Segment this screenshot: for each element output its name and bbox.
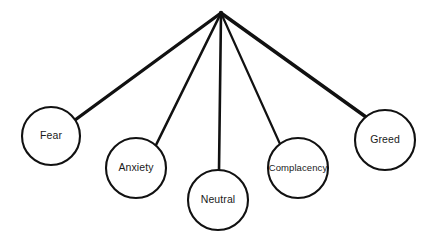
edge-apex-to-greed (221, 13, 366, 117)
edge-apex-to-fear (75, 13, 221, 120)
diagram-canvas: FearAnxietyNeutralComplacencyGreed (0, 0, 436, 240)
fan-hierarchy-diagram: FearAnxietyNeutralComplacencyGreed (0, 0, 436, 240)
node-label-greed: Greed (370, 133, 400, 145)
apex-junction-point (219, 11, 223, 15)
apex-node (219, 11, 223, 15)
node-label-neutral: Neutral (201, 193, 236, 205)
node-greed[interactable]: Greed (355, 110, 415, 170)
node-label-fear: Fear (40, 129, 62, 141)
node-label-anxiety: Anxiety (118, 161, 154, 173)
edge-apex-to-neutral (219, 13, 221, 170)
node-complacency[interactable]: Complacency (268, 138, 328, 198)
node-neutral[interactable]: Neutral (188, 170, 248, 230)
edge-apex-to-anxiety (156, 13, 221, 145)
node-fear[interactable]: Fear (22, 107, 80, 165)
node-anxiety[interactable]: Anxiety (106, 138, 166, 198)
node-label-complacency: Complacency (269, 162, 328, 173)
